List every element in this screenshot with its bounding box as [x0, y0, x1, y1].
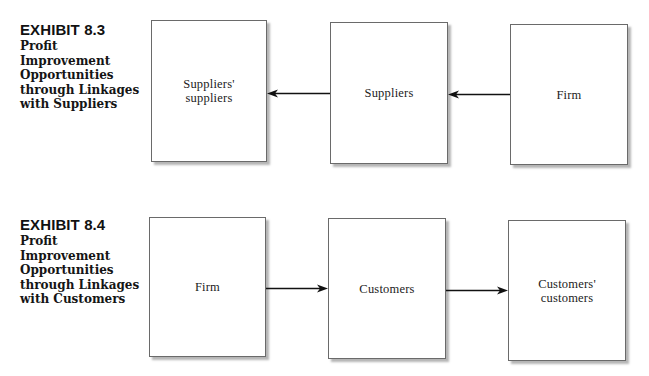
box-label: Firm	[195, 280, 220, 294]
box-label-line: suppliers	[183, 91, 234, 105]
exhibit-title-line: Profit	[20, 39, 145, 54]
box-label-line: Firm	[556, 88, 581, 102]
box-label: Suppliers	[364, 86, 413, 100]
exhibit-number: EXHIBIT 8.4	[20, 217, 145, 233]
exhibit-title-line: Opportunities	[20, 263, 145, 278]
box-firm-top: Firm	[510, 24, 628, 165]
arrow-right-icon	[266, 284, 328, 293]
box-label: Firm	[556, 88, 581, 102]
exhibit-title-line: through Linkages	[20, 83, 145, 98]
box-label-line: Suppliers'	[183, 77, 234, 91]
exhibit-title-line: through Linkages	[20, 278, 145, 293]
exhibit-title-line: with Suppliers	[20, 97, 145, 112]
box-label: Customers	[359, 282, 414, 296]
box-suppliers-suppliers: Suppliers' suppliers	[151, 20, 267, 162]
arrow-left-icon	[448, 90, 510, 99]
arrow-left-icon	[267, 89, 330, 98]
exhibit-8-4-caption: EXHIBIT 8.4 Profit Improvement Opportuni…	[20, 217, 145, 307]
box-label: Suppliers' suppliers	[183, 77, 234, 105]
exhibit-title-line: Opportunities	[20, 68, 145, 83]
exhibit-title-line: Improvement	[20, 249, 145, 264]
box-suppliers: Suppliers	[330, 22, 448, 164]
exhibit-number: EXHIBIT 8.3	[20, 22, 145, 38]
box-firm-bottom: Firm	[149, 217, 266, 357]
box-label-line: Customers'	[538, 277, 596, 291]
box-label-line: Customers	[359, 282, 414, 296]
box-customers-customers: Customers' customers	[508, 220, 626, 361]
exhibit-8-3-caption: EXHIBIT 8.3 Profit Improvement Opportuni…	[20, 22, 145, 112]
exhibit-title: Profit Improvement Opportunities through…	[20, 234, 145, 307]
box-label-line: Firm	[195, 280, 220, 294]
exhibit-title-line: Profit	[20, 234, 145, 249]
exhibit-title-line: Improvement	[20, 54, 145, 69]
exhibit-title-line: with Customers	[20, 292, 145, 307]
exhibit-title: Profit Improvement Opportunities through…	[20, 39, 145, 112]
box-customers: Customers	[328, 218, 446, 359]
box-label-line: customers	[538, 291, 596, 305]
box-label-line: Suppliers	[364, 86, 413, 100]
arrow-right-icon	[446, 286, 508, 295]
box-label: Customers' customers	[538, 277, 596, 305]
